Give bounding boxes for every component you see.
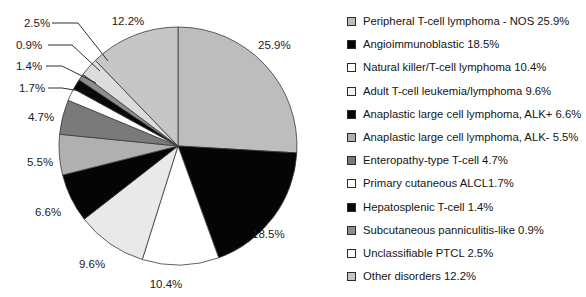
- legend-item[interactable]: Unclassifiable PTCL 2.5%: [347, 246, 586, 269]
- legend-swatch-icon: [347, 110, 356, 119]
- legend-swatch-icon: [347, 156, 356, 165]
- legend-swatch-icon: [347, 249, 356, 258]
- legend-item-label: Anaplastic large cell lymphoma, ALK- 5.5…: [363, 130, 578, 144]
- pie-chart-svg: 25.9%18.5%10.4%9.6%6.6%5.5%4.7%1.7%1.4%0…: [0, 0, 340, 297]
- slice-percent-label: 6.6%: [35, 206, 61, 218]
- legend-item-label: Hepatosplenic T-cell 1.4%: [363, 200, 493, 214]
- legend-item[interactable]: Peripheral T-cell lymphoma - NOS 25.9%: [347, 14, 586, 37]
- legend-item[interactable]: Natural killer/T-cell lymphoma 10.4%: [347, 60, 586, 83]
- legend-item-label: Angioimmunoblastic 18.5%: [363, 37, 499, 51]
- legend-item-label: Subcutaneous panniculitis-like 0.9%: [363, 223, 544, 237]
- slice-percent-label: 10.4%: [150, 278, 183, 290]
- slice-percent-label: 1.4%: [16, 60, 42, 72]
- legend-swatch-icon: [347, 272, 356, 281]
- legend-item-label: Primary cutaneous ALCL1.7%: [363, 176, 514, 190]
- slice-percent-label: 25.9%: [258, 39, 291, 51]
- legend-item-label: Natural killer/T-cell lymphoma 10.4%: [363, 60, 546, 74]
- legend-item[interactable]: Adult T-cell leukemia/lymphoma 9.6%: [347, 84, 586, 107]
- legend-item[interactable]: Subcutaneous panniculitis-like 0.9%: [347, 223, 586, 246]
- legend-swatch-icon: [347, 226, 356, 235]
- slice-percent-label: 1.7%: [19, 82, 45, 94]
- legend-swatch-icon: [347, 63, 356, 72]
- pie-chart-figure: 25.9%18.5%10.4%9.6%6.6%5.5%4.7%1.7%1.4%0…: [0, 0, 586, 297]
- slice-percent-label: 5.5%: [27, 156, 53, 168]
- legend-item[interactable]: Angioimmunoblastic 18.5%: [347, 37, 586, 60]
- legend-item-label: Other disorders 12.2%: [363, 269, 476, 283]
- legend-item[interactable]: Enteropathy-type T-cell 4.7%: [347, 153, 586, 176]
- legend-swatch-icon: [347, 17, 356, 26]
- legend-item[interactable]: Anaplastic large cell lymphoma, ALK- 5.5…: [347, 130, 586, 153]
- legend-item-label: Enteropathy-type T-cell 4.7%: [363, 153, 508, 167]
- legend-swatch-icon: [347, 133, 356, 142]
- slice-percent-label: 2.5%: [24, 17, 50, 29]
- legend-swatch-icon: [347, 179, 356, 188]
- legend-swatch-icon: [347, 40, 356, 49]
- pie-plot-area: 25.9%18.5%10.4%9.6%6.6%5.5%4.7%1.7%1.4%0…: [0, 0, 340, 297]
- legend-item-label: Unclassifiable PTCL 2.5%: [363, 246, 493, 260]
- legend-item[interactable]: Other disorders 12.2%: [347, 269, 586, 292]
- legend-swatch-icon: [347, 87, 356, 96]
- leader-2-5: [52, 23, 108, 61]
- slice-percent-label: 4.7%: [28, 111, 54, 123]
- legend-item-label: Peripheral T-cell lymphoma - NOS 25.9%: [363, 14, 569, 28]
- legend-item[interactable]: Anaplastic large cell lymphoma, ALK+ 6.6…: [347, 107, 586, 130]
- legend-item-label: Anaplastic large cell lymphoma, ALK+ 6.6…: [363, 107, 581, 121]
- slice-percent-label: 18.5%: [252, 228, 285, 240]
- slice-percent-label: 0.9%: [16, 39, 42, 51]
- slice-percent-label: 12.2%: [112, 15, 145, 27]
- slice-percent-label: 9.6%: [79, 258, 105, 270]
- legend-item[interactable]: Primary cutaneous ALCL1.7%: [347, 176, 586, 199]
- chart-legend: Peripheral T-cell lymphoma - NOS 25.9%An…: [347, 14, 586, 290]
- legend-item-label: Adult T-cell leukemia/lymphoma 9.6%: [363, 84, 551, 98]
- legend-swatch-icon: [347, 203, 356, 212]
- legend-item[interactable]: Hepatosplenic T-cell 1.4%: [347, 200, 586, 223]
